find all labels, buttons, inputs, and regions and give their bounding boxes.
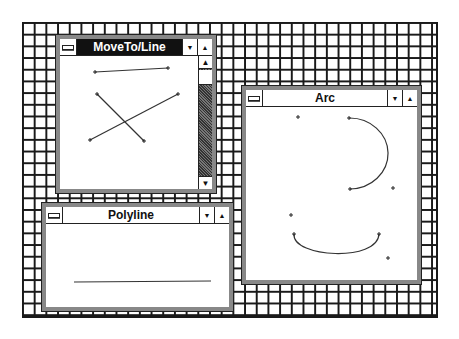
plus-marker-icon [289, 213, 293, 217]
plus-marker-icon [347, 116, 351, 120]
plus-marker-icon [292, 232, 296, 236]
drawn-arcs [294, 118, 388, 254]
drawn-line [97, 94, 144, 141]
plus-marker-icon [377, 232, 381, 236]
plus-marker-icon [348, 187, 352, 191]
plus-marker-icon [386, 256, 390, 260]
drawn-arc [349, 118, 388, 189]
point-markers [88, 66, 395, 260]
drawn-arc [294, 234, 379, 254]
drawn-line [74, 281, 211, 282]
drawn-lines [74, 68, 211, 282]
plus-marker-icon [93, 70, 97, 74]
plus-marker-icon [166, 66, 170, 70]
drawn-line [95, 68, 168, 72]
plus-marker-icon [296, 115, 300, 119]
plus-marker-icon [391, 186, 395, 190]
drawing-layer [0, 0, 459, 339]
